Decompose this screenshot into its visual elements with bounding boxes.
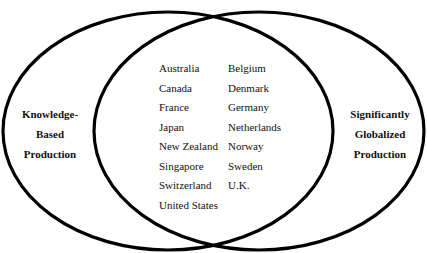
intersection-left-column: Australia Canada France Japan New Zealan… (159, 59, 218, 215)
left-set-label-line: Knowledge- (10, 104, 90, 124)
left-set-label-line: Based (10, 124, 90, 144)
intersection-right-column: Belgium Denmark Germany Netherlands Norw… (228, 59, 281, 196)
country-item: France (159, 98, 218, 118)
country-item: New Zealand (159, 137, 218, 157)
country-item: Switzerland (159, 176, 218, 196)
country-item: U.K. (228, 176, 281, 196)
country-item: Australia (159, 59, 218, 79)
right-set-label: Significantly Globalized Production (338, 104, 422, 164)
country-item: Belgium (228, 59, 281, 79)
right-set-label-line: Production (338, 144, 422, 164)
country-item: Norway (228, 137, 281, 157)
right-set-label-line: Globalized (338, 124, 422, 144)
country-item: United States (159, 196, 218, 216)
country-item: Japan (159, 118, 218, 138)
right-set-label-line: Significantly (338, 104, 422, 124)
country-item: Netherlands (228, 118, 281, 138)
left-set-label: Knowledge- Based Production (10, 104, 90, 164)
country-item: Germany (228, 98, 281, 118)
country-item: Denmark (228, 79, 281, 99)
country-item: Singapore (159, 157, 218, 177)
country-item: Sweden (228, 157, 281, 177)
left-set-label-line: Production (10, 144, 90, 164)
country-item: Canada (159, 79, 218, 99)
